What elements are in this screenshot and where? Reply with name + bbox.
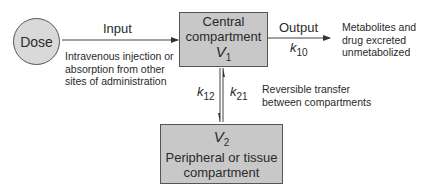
central-line2: compartment xyxy=(186,29,262,44)
output-desc-line: unmetabolized xyxy=(342,46,416,59)
input-desc-line: Intravenous injection or xyxy=(65,50,174,63)
peripheral-line1: Peripheral or tissue xyxy=(166,150,278,165)
input-desc-line: sites of administration xyxy=(65,75,174,88)
central-line1: Central xyxy=(203,14,245,29)
dose-circle: Dose xyxy=(13,18,60,65)
k21-label: k21 xyxy=(230,84,248,102)
transfer-desc-line: Reversible transfer xyxy=(262,83,371,96)
output-rate: k10 xyxy=(290,40,308,58)
dose-label: Dose xyxy=(20,34,53,50)
input-description: Intravenous injection or absorption from… xyxy=(65,50,174,88)
output-desc-line: drug excreted xyxy=(342,34,416,47)
peripheral-line2: compartment xyxy=(184,165,260,180)
output-label: Output xyxy=(279,20,318,35)
output-description: Metabolites and drug excreted unmetaboli… xyxy=(342,21,416,59)
central-compartment: Central compartment V1 xyxy=(179,12,268,67)
central-volume: V1 xyxy=(216,44,232,65)
input-label: Input xyxy=(103,21,132,36)
input-desc-line: absorption from other xyxy=(65,63,174,76)
k12-label: k12 xyxy=(197,84,215,102)
peripheral-volume: V2 xyxy=(214,129,230,150)
transfer-desc-line: between compartments xyxy=(262,96,371,109)
output-desc-line: Metabolites and xyxy=(342,21,416,34)
peripheral-compartment: V2 Peripheral or tissue compartment xyxy=(160,124,283,184)
transfer-description: Reversible transfer between compartments xyxy=(262,83,371,108)
